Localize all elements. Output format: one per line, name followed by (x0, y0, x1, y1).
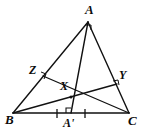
vertex-label-B: B (5, 113, 14, 126)
figure-canvas (0, 0, 146, 131)
vertex-label-A: A (85, 3, 94, 16)
vertex-label-C: C (128, 114, 137, 127)
vertex-dot-X (70, 96, 73, 99)
segment-CZ (43, 76, 129, 113)
point-label-X: X (60, 80, 68, 92)
point-label-Y: Y (119, 69, 126, 81)
point-label-A-prime: A' (63, 117, 74, 129)
geometry-figure: A B C Z Y X A' (0, 0, 146, 131)
segment-AB (13, 22, 88, 113)
point-label-Z: Z (29, 64, 36, 76)
segment-AA-prime (71, 22, 88, 113)
